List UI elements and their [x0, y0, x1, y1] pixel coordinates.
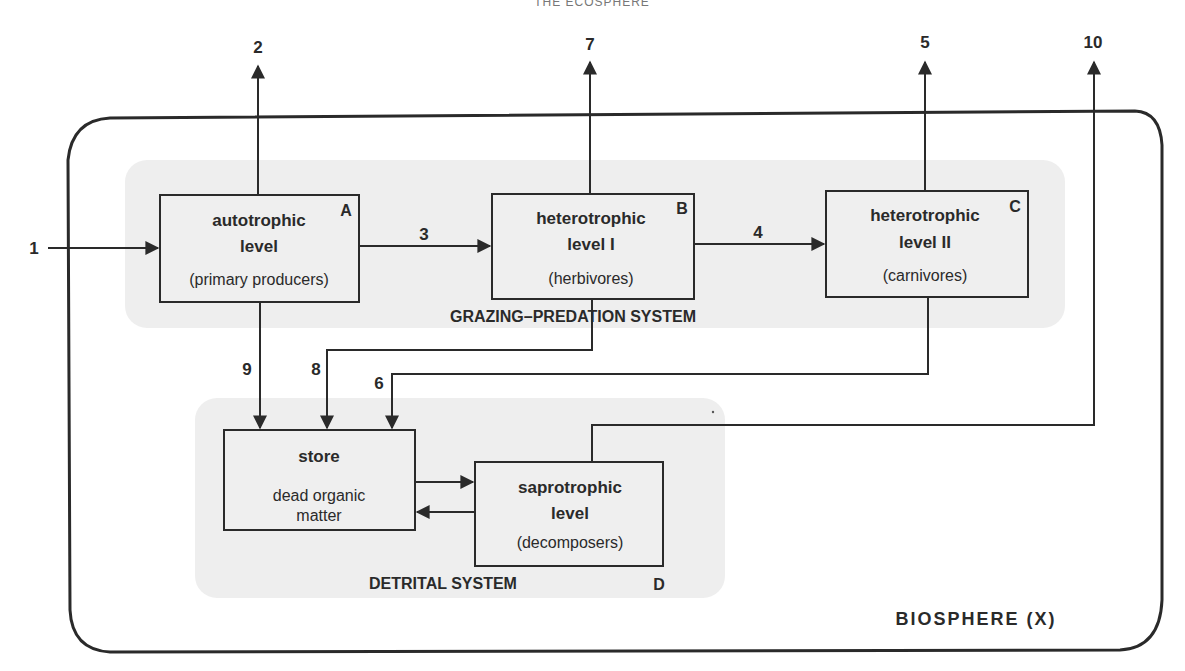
flow-8-label: 8: [311, 360, 320, 379]
box-title: heterotrophic: [870, 206, 980, 225]
flow-9-label: 9: [242, 360, 251, 379]
box-corner-label: A: [340, 202, 352, 219]
heterotrophic-level-1-box: heterotrophic level I (herbivores) B: [492, 194, 694, 299]
box-title-2: level I: [567, 235, 614, 254]
flow-2-label: 2: [253, 38, 262, 57]
box-title: store: [298, 447, 340, 466]
saprotrophic-level-box: saprotrophic level (decomposers): [475, 462, 663, 566]
autotrophic-level-box: autotrophic level (primary producers) A: [160, 195, 359, 302]
box-subtitle: dead organic: [273, 487, 366, 504]
box-corner-label: C: [1009, 198, 1021, 215]
detrital-system-label: DETRITAL SYSTEM: [369, 575, 517, 592]
speck: [712, 411, 714, 413]
grazing-predation-system-label: GRAZING–PREDATION SYSTEM: [450, 308, 696, 325]
box-title-2: level: [240, 237, 278, 256]
ecosystem-diagram: THE ECOSPHERE autotrophic level (primary…: [0, 0, 1185, 671]
box-corner-label: B: [676, 200, 688, 217]
heterotrophic-level-2-box: heterotrophic level II (carnivores) C: [826, 191, 1028, 297]
flow-6-label: 6: [374, 374, 383, 393]
flow-4-label: 4: [753, 223, 763, 242]
box-title: saprotrophic: [518, 478, 622, 497]
store-dead-organic-matter-box: store dead organic matter: [224, 430, 415, 530]
box-subtitle: (carnivores): [883, 267, 967, 284]
box-title: autotrophic: [212, 211, 306, 230]
box-subtitle: (herbivores): [548, 270, 633, 287]
box-subtitle-2: matter: [296, 507, 342, 524]
box-title-2: level II: [899, 233, 951, 252]
box-title: heterotrophic: [536, 209, 646, 228]
flow-7-label: 7: [585, 35, 594, 54]
page-header: THE ECOSPHERE: [534, 0, 650, 9]
biosphere-label: BIOSPHERE (X): [895, 609, 1056, 629]
flow-3-label: 3: [419, 225, 428, 244]
flow-10-label: 10: [1084, 33, 1103, 52]
flow-5-label: 5: [920, 33, 929, 52]
box-title-2: level: [551, 504, 589, 523]
flow-1-label: 1: [29, 239, 38, 258]
box-subtitle: (decomposers): [517, 534, 624, 551]
detrital-corner-label: D: [653, 576, 665, 593]
box-subtitle: (primary producers): [189, 271, 329, 288]
